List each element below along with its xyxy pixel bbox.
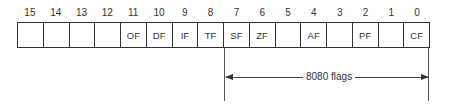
bit-number: 15 bbox=[17, 6, 43, 20]
bit-cell-zero-flag: ZF bbox=[250, 23, 276, 47]
bit-number: 13 bbox=[69, 6, 95, 20]
bit-cell-carry-flag: CF bbox=[404, 23, 429, 47]
bit-number: 6 bbox=[249, 6, 275, 20]
bit-cell-3 bbox=[327, 23, 353, 47]
bit-cell-overflow-flag: OF bbox=[121, 23, 147, 47]
bit-cell-auxiliary-carry-flag: AF bbox=[301, 23, 327, 47]
bit-cell-interrupt-flag: IF bbox=[173, 23, 199, 47]
bit-number: 14 bbox=[43, 6, 69, 20]
bit-number: 5 bbox=[275, 6, 301, 20]
bit-cell-13 bbox=[70, 23, 96, 47]
arrow-right-icon bbox=[421, 74, 429, 80]
span-label: 8080 flags bbox=[303, 71, 355, 83]
bit-cell-direction-flag: DF bbox=[147, 23, 173, 47]
register-cells: OF DF IF TF SF ZF AF PF CF bbox=[17, 22, 430, 48]
bit-number: 12 bbox=[94, 6, 120, 20]
bit-number: 8 bbox=[198, 6, 224, 20]
bit-cell-trap-flag: TF bbox=[198, 23, 224, 47]
arrow-left-icon bbox=[225, 74, 233, 80]
bit-cell-parity-flag: PF bbox=[353, 23, 379, 47]
bit-number: 2 bbox=[353, 6, 379, 20]
bit-cell-sign-flag: SF bbox=[224, 23, 250, 47]
bit-cell-14 bbox=[44, 23, 70, 47]
bit-number: 0 bbox=[404, 6, 430, 20]
bit-number: 3 bbox=[327, 6, 353, 20]
bit-number: 1 bbox=[378, 6, 404, 20]
bit-number: 10 bbox=[146, 6, 172, 20]
bit-cell-1 bbox=[379, 23, 405, 47]
bit-cell-5 bbox=[276, 23, 302, 47]
bit-number: 9 bbox=[172, 6, 198, 20]
bit-number: 4 bbox=[301, 6, 327, 20]
bit-cell-12 bbox=[95, 23, 121, 47]
bit-number-row: 15 14 13 12 11 10 9 8 7 6 5 4 3 2 1 0 bbox=[17, 6, 430, 20]
bit-number: 7 bbox=[224, 6, 250, 20]
bit-number: 11 bbox=[120, 6, 146, 20]
bit-cell-15 bbox=[18, 23, 44, 47]
